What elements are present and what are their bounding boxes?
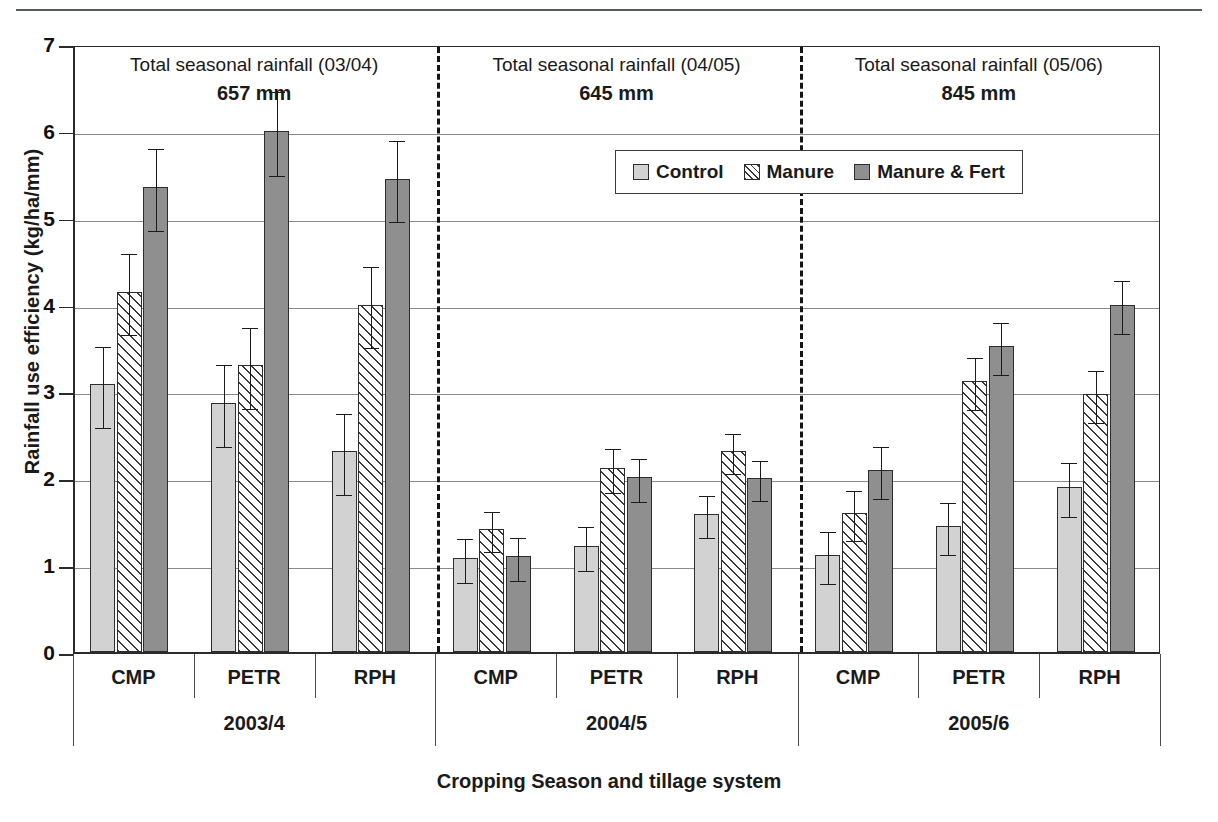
bar-chart-figure: Rainfall use efficiency (kg/ha/mm) Cropp… (0, 0, 1218, 822)
error-bar-cap-lower (940, 555, 956, 556)
x-axis-separator-1 (194, 654, 195, 698)
legend-swatch-manure-icon (744, 164, 760, 180)
error-bar-cap-upper (699, 496, 715, 497)
error-bar-stem (344, 414, 345, 496)
error-bar-cap-lower (216, 447, 232, 448)
error-bar-cap-upper (216, 365, 232, 366)
y-tick-label-7: 7 (0, 33, 55, 57)
error-bar-stem (492, 512, 493, 552)
error-bar-cap-lower (846, 541, 862, 542)
error-bar-cap-lower (820, 584, 836, 585)
error-bar-cap-upper (940, 503, 956, 504)
y-tick-mark-1 (59, 567, 73, 569)
y-tick-mark-5 (59, 220, 73, 222)
bar-manurefert-2005-6-PETR (989, 346, 1014, 652)
error-bar-cap-lower (363, 348, 379, 349)
error-bar-cap-upper (578, 527, 594, 528)
error-bar-cap-lower (510, 581, 526, 582)
error-bar-stem (760, 461, 761, 501)
error-bar-stem (156, 149, 157, 231)
gridline-6 (75, 134, 1159, 135)
y-tick-mark-6 (59, 133, 73, 135)
legend-entry-control: Control (633, 161, 724, 183)
panel-header-2003-4: Total seasonal rainfall (03/04)657 mm (73, 52, 435, 107)
x-tillage-label-4: PETR (556, 666, 677, 689)
error-bar-cap-upper (121, 254, 137, 255)
error-bar-stem (129, 254, 130, 336)
error-bar-cap-lower (605, 493, 621, 494)
error-bar-cap-lower (873, 499, 889, 500)
panel-rainfall-value: 645 mm (435, 79, 797, 107)
bar-manure-2003-4-CMP (117, 292, 142, 652)
legend-swatch-manurefert-icon (854, 164, 870, 180)
error-bar-stem (613, 449, 614, 492)
gridline-5 (75, 221, 1159, 222)
chart-legend: ControlManureManure & Fert (615, 150, 1023, 194)
error-bar-cap-lower (578, 571, 594, 572)
error-bar-stem (948, 503, 949, 555)
error-bar-cap-lower (1114, 334, 1130, 335)
error-bar-stem (707, 496, 708, 538)
y-tick-mark-7 (59, 46, 73, 48)
x-axis-separator-4 (556, 654, 557, 698)
error-bar-cap-upper (148, 149, 164, 150)
y-tick-mark-0 (59, 654, 73, 656)
error-bar-cap-lower (993, 375, 1009, 376)
error-bar-stem (1122, 281, 1123, 335)
error-bar-cap-upper (631, 459, 647, 460)
error-bar-cap-lower (752, 501, 768, 502)
error-bar-stem (1096, 371, 1097, 423)
error-bar-cap-lower (389, 222, 405, 223)
bar-manurefert-2003-4-RPH (385, 179, 410, 652)
panel-header-text: Total seasonal rainfall (04/05) (435, 52, 797, 79)
y-tick-mark-2 (59, 480, 73, 482)
legend-entry-manure: Manure (744, 161, 835, 183)
error-bar-cap-upper (1114, 281, 1130, 282)
error-bar-stem (881, 447, 882, 499)
bar-manurefert-2004-5-PETR (627, 477, 652, 652)
y-tick-label-1: 1 (0, 554, 55, 578)
x-axis-separator-8 (1039, 654, 1040, 698)
error-bar-stem (224, 365, 225, 447)
x-season-label-2005-6: 2005/6 (798, 712, 1160, 735)
error-bar-stem (397, 141, 398, 223)
bar-manurefert-2004-5-RPH (747, 478, 772, 652)
bar-manure-2003-4-RPH (358, 305, 383, 652)
error-bar-stem (639, 459, 640, 502)
x-axis-separator-2 (315, 654, 316, 698)
error-bar-cap-upper (993, 323, 1009, 324)
error-bar-cap-upper (336, 414, 352, 415)
panel-rainfall-value: 845 mm (798, 79, 1160, 107)
error-bar-cap-upper (510, 538, 526, 539)
x-season-label-2004-5: 2004/5 (435, 712, 797, 735)
legend-label: Manure & Fert (877, 161, 1005, 183)
error-bar-cap-upper (1061, 463, 1077, 464)
bar-manurefert-2005-6-RPH (1110, 305, 1135, 652)
error-bar-stem (518, 538, 519, 581)
x-tillage-label-8: RPH (1039, 666, 1160, 689)
error-bar-stem (1069, 463, 1070, 517)
bar-manurefert-2003-4-CMP (143, 187, 168, 652)
error-bar-cap-lower (699, 538, 715, 539)
error-bar-cap-lower (242, 409, 258, 410)
error-bar-cap-lower (1061, 517, 1077, 518)
error-bar-cap-lower (269, 176, 285, 177)
figure-page: Rainfall use efficiency (kg/ha/mm) Cropp… (0, 0, 1218, 822)
x-axis-separator-9 (1160, 654, 1161, 746)
y-tick-label-3: 3 (0, 380, 55, 404)
error-bar-cap-lower (95, 428, 111, 429)
error-bar-stem (854, 491, 855, 541)
error-bar-cap-upper (389, 141, 405, 142)
bar-manurefert-2003-4-PETR (264, 131, 289, 652)
error-bar-cap-upper (846, 491, 862, 492)
error-bar-cap-lower (967, 410, 983, 411)
error-bar-stem (733, 434, 734, 474)
error-bar-cap-upper (967, 358, 983, 359)
error-bar-cap-lower (725, 474, 741, 475)
x-season-label-2003-4: 2003/4 (73, 712, 435, 735)
error-bar-cap-upper (363, 267, 379, 268)
y-tick-label-6: 6 (0, 120, 55, 144)
panel-rainfall-value: 657 mm (73, 79, 435, 107)
gridline-4 (75, 308, 1159, 309)
error-bar-stem (250, 328, 251, 410)
